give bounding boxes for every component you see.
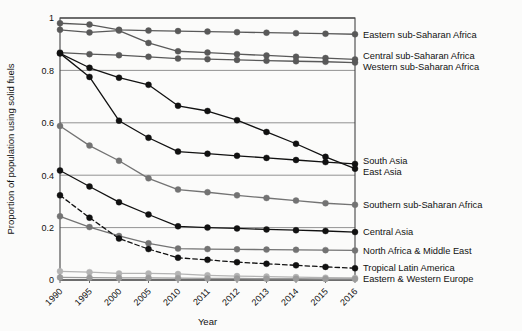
- data-point: [175, 275, 181, 281]
- data-point: [57, 213, 63, 219]
- x-tick-label-2000: 2000: [102, 286, 123, 307]
- series-line: [60, 216, 355, 250]
- data-point: [175, 149, 181, 155]
- data-point: [293, 141, 299, 147]
- y-axis-title: Proportion of population using solid fue…: [5, 63, 16, 234]
- series-eastern-sub-saharan-africa: [57, 20, 358, 37]
- data-point: [323, 276, 329, 282]
- x-tick-label-2012: 2012: [220, 286, 241, 307]
- data-point: [175, 255, 181, 261]
- data-point: [57, 268, 63, 274]
- data-point: [175, 246, 181, 252]
- data-point: [352, 247, 358, 253]
- data-point: [234, 29, 240, 35]
- data-point: [175, 56, 181, 62]
- data-point: [264, 261, 270, 267]
- data-point: [87, 29, 93, 35]
- data-point: [293, 247, 299, 253]
- data-point: [175, 187, 181, 193]
- legend-label-north-africa-middle-east: North Africa & Middle East: [363, 246, 472, 256]
- legend-label-central-sub-saharan-africa: Central sub-Saharan Africa: [363, 51, 475, 61]
- data-point: [175, 28, 181, 34]
- data-point: [293, 262, 299, 268]
- series-central-asia: [57, 167, 358, 235]
- y-tick-label-0: 0: [49, 275, 54, 285]
- x-tick-label-2015: 2015: [309, 286, 330, 307]
- data-point: [57, 50, 63, 56]
- data-point: [116, 118, 122, 124]
- data-point: [234, 117, 240, 123]
- data-point: [146, 28, 152, 34]
- legend-group: Eastern sub-Saharan AfricaCentral sub-Sa…: [363, 30, 483, 285]
- data-point: [146, 175, 152, 181]
- legend-label-western-sub-saharan-africa: Western sub-Saharan Africa: [363, 62, 480, 72]
- x-tick-label-1995: 1995: [73, 286, 94, 307]
- data-point: [205, 257, 211, 263]
- y-tick-label-1: 1: [49, 13, 54, 23]
- data-point: [57, 123, 63, 129]
- series-north-africa-middle-east: [57, 213, 358, 253]
- data-point: [234, 259, 240, 265]
- data-point: [205, 189, 211, 195]
- data-point: [175, 223, 181, 229]
- legend-label-south-asia: South Asia: [363, 156, 408, 166]
- legend-label-eastern-western-europe: Eastern & Western Europe: [363, 274, 473, 284]
- data-point: [116, 236, 122, 242]
- y-tick-label-0.6: 0.6: [41, 118, 54, 128]
- data-point: [323, 154, 329, 160]
- data-point: [352, 166, 358, 172]
- data-point: [116, 158, 122, 164]
- legend-label-east-asia: East Asia: [363, 167, 403, 177]
- data-point: [323, 247, 329, 253]
- data-point: [146, 40, 152, 46]
- data-point: [234, 275, 240, 281]
- x-tick-label-2014: 2014: [279, 286, 300, 307]
- data-point: [87, 51, 93, 57]
- data-point: [175, 103, 181, 109]
- data-point: [205, 108, 211, 114]
- y-tick-label-0.4: 0.4: [41, 171, 54, 181]
- series-tropical-latin-america: [57, 192, 358, 271]
- x-tick-label-2016: 2016: [338, 286, 359, 307]
- data-point: [234, 51, 240, 57]
- data-point: [116, 275, 122, 281]
- series-southern-sub-saharan-africa: [57, 123, 358, 208]
- y-tick-label-0.8: 0.8: [41, 66, 54, 76]
- data-point: [205, 275, 211, 281]
- data-point: [293, 227, 299, 233]
- data-point: [234, 153, 240, 159]
- x-tick-label-2005: 2005: [132, 286, 153, 307]
- data-point: [264, 30, 270, 36]
- data-point: [323, 228, 329, 234]
- data-point: [146, 246, 152, 252]
- data-point: [57, 274, 63, 280]
- data-point: [205, 246, 211, 252]
- series-high-income: [57, 274, 358, 282]
- x-tick-label-2010: 2010: [161, 286, 182, 307]
- data-point: [116, 199, 122, 205]
- data-point: [323, 31, 329, 37]
- data-point: [87, 183, 93, 189]
- data-point: [205, 50, 211, 56]
- data-point: [264, 276, 270, 282]
- data-point: [293, 58, 299, 64]
- data-point: [205, 151, 211, 157]
- data-point: [57, 27, 63, 33]
- data-point: [293, 30, 299, 36]
- series-group: [57, 20, 358, 282]
- x-tick-label-1990: 1990: [43, 286, 64, 307]
- data-point: [87, 22, 93, 28]
- data-point: [57, 192, 63, 198]
- data-point: [87, 143, 93, 149]
- data-point: [352, 31, 358, 37]
- legend-label-tropical-latin-america: Tropical Latin America: [363, 263, 455, 273]
- data-point: [87, 269, 93, 275]
- solid-fuels-line-chart: 00.20.40.60.81Proportion of population u…: [0, 0, 522, 331]
- data-point: [234, 57, 240, 63]
- x-axis-ticks: 1990199520002005201020112012201320142015…: [43, 280, 359, 308]
- data-point: [352, 276, 358, 282]
- data-point: [264, 226, 270, 232]
- data-point: [264, 58, 270, 64]
- data-point: [57, 20, 63, 26]
- data-point: [146, 82, 152, 88]
